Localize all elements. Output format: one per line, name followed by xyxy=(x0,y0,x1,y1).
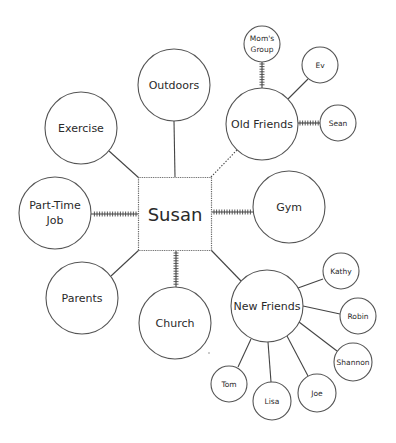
connection-susan-gym xyxy=(212,210,253,215)
connection-new-friends-tom xyxy=(238,339,251,367)
node-label: Exercise xyxy=(58,122,104,135)
connection-old-friends-sean xyxy=(298,121,320,126)
connection-susan-new-friends xyxy=(211,250,241,281)
scan-artifacts xyxy=(208,352,210,354)
node-label: Joe xyxy=(310,389,323,398)
node-kathy: Kathy xyxy=(323,253,359,289)
node-label: Tom xyxy=(220,380,236,389)
node-old-friends: Old Friends xyxy=(226,88,298,160)
connection-susan-parents xyxy=(111,250,139,276)
node-label: Robin xyxy=(347,312,368,321)
node-label: Lisa xyxy=(265,397,280,406)
node-sean: Sean xyxy=(320,105,356,141)
node-parents: Parents xyxy=(46,262,118,334)
node-exercise: Exercise xyxy=(45,92,117,164)
center-person: Susan xyxy=(139,178,212,251)
connection-new-friends-lisa xyxy=(268,342,271,382)
connection-old-friends-moms-group xyxy=(260,62,265,88)
connection-old-friends-ev xyxy=(288,79,308,99)
node-new-friends: New Friends xyxy=(231,270,303,342)
node-lisa: Lisa xyxy=(253,382,291,420)
node-outdoors: Outdoors xyxy=(138,49,210,121)
node-label: Gym xyxy=(276,201,302,214)
node-label: Ev xyxy=(315,61,325,70)
node-label: Kathy xyxy=(330,267,352,276)
node-label: Outdoors xyxy=(149,79,200,92)
node-label: Church xyxy=(156,317,195,330)
node-ev: Ev xyxy=(302,47,338,83)
connection-new-friends-robin xyxy=(303,306,340,314)
ecomap-diagram: OutdoorsExercisePart-TimeJobParentsChurc… xyxy=(0,0,396,443)
node-church: Church xyxy=(139,287,211,359)
node-gym: Gym xyxy=(253,171,325,243)
connection-new-friends-shannon xyxy=(299,322,337,351)
connection-new-friends-kathy xyxy=(298,279,323,288)
connection-susan-outdoors xyxy=(174,121,175,177)
node-shannon: Shannon xyxy=(334,343,372,381)
node-label: Sean xyxy=(329,119,348,128)
node-label: Shannon xyxy=(337,358,370,367)
node-label: Mom's xyxy=(250,34,274,43)
node-part-time-job: Part-TimeJob xyxy=(19,177,91,249)
node-label: Part-Time xyxy=(29,199,81,212)
node-tom: Tom xyxy=(211,366,247,402)
node-label: New Friends xyxy=(233,300,300,313)
scan-speck xyxy=(208,352,210,354)
node-moms-group: Mom'sGroup xyxy=(244,26,280,62)
node-label: Job xyxy=(46,214,64,227)
connection-susan-church xyxy=(174,251,179,287)
node-label: Parents xyxy=(62,292,103,305)
node-label: Group xyxy=(251,45,274,54)
node-robin: Robin xyxy=(340,298,376,334)
connection-new-friends-joe xyxy=(287,336,308,376)
connection-susan-old-friends xyxy=(211,150,237,177)
node-joe: Joe xyxy=(298,374,336,412)
center-person-label: Susan xyxy=(148,204,203,225)
connection-susan-part-time-job xyxy=(91,212,138,217)
node-label: Old Friends xyxy=(231,118,293,131)
connection-susan-exercise xyxy=(109,151,139,178)
